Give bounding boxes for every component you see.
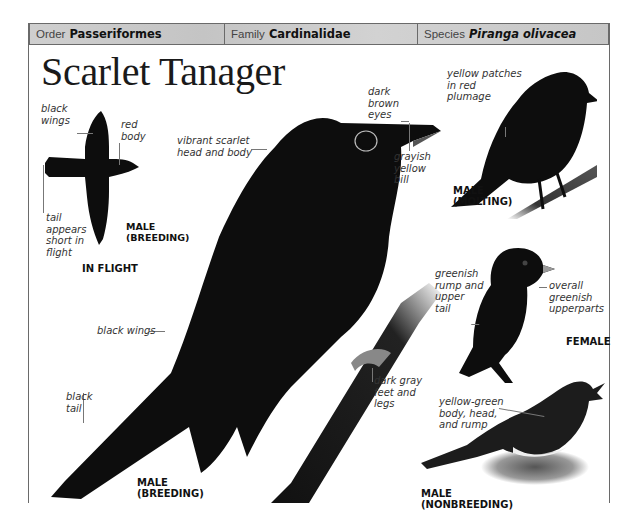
label-yellow-green-body: yellow-green body, head, and rump [439,396,504,431]
order-value: Passeriformes [69,27,161,41]
leader-line [539,287,547,288]
leader-line [505,127,506,137]
family-key: Family [231,28,265,40]
label-feet-legs: dark gray feet and legs [374,375,422,410]
order-key: Order [36,28,65,40]
caption-female: FEMALE [566,336,611,347]
label-wings: black wings [97,325,156,337]
field-guide-page: Order Passeriformes Family Cardinalidae … [28,23,610,503]
label-eyes: dark brown eyes [368,86,399,121]
species-value: Piranga olivacea [469,27,576,41]
leader-line [372,368,373,382]
taxonomy-family: Family Cardinalidae [225,24,418,44]
label-tail: black tail [66,391,93,414]
family-value: Cardinalidae [269,27,351,41]
label-greenish-rump: greenish rump and upper tail [435,268,484,314]
female-bird-image [439,245,559,385]
taxonomy-species: Species Piranga olivacea [418,24,608,44]
label-yellow-patches: yellow patches in red plumage [447,68,522,103]
leader-line [251,149,267,150]
taxonomy-order: Order Passeriformes [30,24,225,44]
caption-main-bird: MALE (BREEDING) [137,477,204,499]
label-bill: grayish yellow bill [394,151,431,186]
taxonomy-bar: Order Passeriformes Family Cardinalidae … [29,23,609,45]
caption-nonbreeding: MALE (NONBREEDING) [421,488,513,510]
species-key: Species [424,28,465,40]
label-head-body: vibrant scarlet head and body [177,135,252,158]
male-nonbreeding-bird-image [417,377,607,487]
label-greenish-upperparts: overall greenish upperparts [549,280,604,315]
caption-molting: MALE (MOLTING) [453,185,512,207]
leader-line [401,121,409,122]
leader-line [409,123,410,151]
